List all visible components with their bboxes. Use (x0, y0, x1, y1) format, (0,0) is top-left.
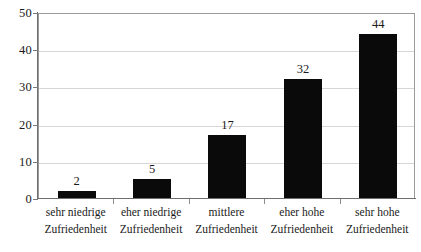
x-axis-category-label-line: eher hohe (264, 204, 339, 221)
x-axis-tick-mark (189, 199, 190, 204)
x-axis-category-label-line: Zufriedenheit (38, 221, 113, 238)
bar-chart: 01020304050 25173244 sehr niedrigeZufrie… (0, 0, 421, 252)
y-axis-tick-label: 50 (4, 7, 32, 19)
bar-value-label: 32 (297, 63, 310, 76)
bar-group: 2 (39, 12, 114, 198)
x-axis-category-label-line: Zufriedenheit (189, 221, 264, 238)
y-axis-labels: 01020304050 (0, 0, 32, 252)
y-axis-line (37, 12, 38, 199)
y-axis-tick-label: 20 (4, 119, 32, 131)
x-axis-category-label: mittlereZufriedenheit (189, 204, 264, 238)
y-axis-tick-label: 40 (4, 44, 32, 56)
bar-group: 44 (341, 12, 416, 198)
y-axis-tick-mark (33, 13, 38, 14)
bar-value-label: 44 (372, 18, 385, 31)
x-axis-category-label-line: sehr niedrige (38, 204, 113, 221)
y-axis-tick-mark (33, 199, 38, 200)
y-axis-tick-label: 0 (4, 193, 32, 205)
bar-group: 5 (114, 12, 189, 198)
x-axis-tick-mark (264, 199, 265, 204)
x-axis-category-label-line: Zufriedenheit (264, 221, 339, 238)
x-axis-category-label-line: sehr hohe (340, 204, 415, 221)
x-axis-labels: sehr niedrigeZufriedenheiteher niedrigeZ… (38, 204, 415, 252)
x-axis-category-label-line: mittlere (189, 204, 264, 221)
bar-group: 32 (265, 12, 340, 198)
bar-group: 17 (190, 12, 265, 198)
y-axis-tick-label: 10 (4, 156, 32, 168)
bar-value-label: 17 (221, 119, 234, 132)
bar[interactable] (359, 34, 397, 198)
x-axis-category-label-line: eher niedrige (113, 204, 188, 221)
x-axis-line (37, 198, 416, 199)
y-axis-tick-mark (33, 50, 38, 51)
y-axis-tick-label: 30 (4, 81, 32, 93)
bar[interactable] (208, 135, 246, 198)
bar-value-label: 2 (74, 175, 80, 188)
y-axis-tick-mark (33, 162, 38, 163)
bar-value-label: 5 (149, 163, 155, 176)
bar[interactable] (284, 79, 322, 198)
bar[interactable] (133, 179, 171, 198)
x-axis-tick-mark (340, 199, 341, 204)
y-axis-tick-mark (33, 87, 38, 88)
y-axis-tick-mark (33, 125, 38, 126)
x-axis-category-label-line: Zufriedenheit (340, 221, 415, 238)
x-axis-category-label: sehr niedrigeZufriedenheit (38, 204, 113, 238)
bar[interactable] (58, 191, 96, 198)
x-axis-category-label: eher hoheZufriedenheit (264, 204, 339, 238)
plot-area: 25173244 (38, 13, 415, 199)
x-axis-category-label: eher niedrigeZufriedenheit (113, 204, 188, 238)
x-axis-category-label: sehr hoheZufriedenheit (340, 204, 415, 238)
x-axis-category-label-line: Zufriedenheit (113, 221, 188, 238)
x-axis-tick-mark (113, 199, 114, 204)
